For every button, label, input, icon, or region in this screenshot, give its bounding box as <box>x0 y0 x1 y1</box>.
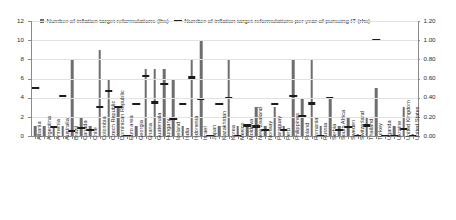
x-axis-category-label: Philippines <box>295 112 301 139</box>
x-axis-category-label: Armenia <box>56 119 62 140</box>
x-axis-category-label: Hungary <box>166 118 172 139</box>
x-axis-category-label: Ghana <box>148 123 154 140</box>
x-axis-category-label: Switzerland <box>360 111 366 140</box>
y-axis-left-tick-label: 0 <box>2 133 24 139</box>
rate-marker <box>133 103 141 105</box>
x-axis-category-label: Chile <box>93 127 99 140</box>
gridline <box>31 40 418 41</box>
x-axis-category-label: Thailand <box>369 118 375 139</box>
rate-marker <box>59 95 67 97</box>
y-axis-right-tick-label: 0.60 <box>424 75 436 81</box>
x-axis-category-label: Paraguay <box>277 116 283 140</box>
rate-marker <box>31 87 39 89</box>
y-axis-right-tick-label: 0.20 <box>424 114 436 120</box>
bar <box>200 40 203 136</box>
rate-marker <box>216 103 224 105</box>
x-axis-category-label: Serbia <box>332 123 338 139</box>
y-axis-right-tick-label: 0.80 <box>424 56 436 62</box>
x-axis-category-label: Russia <box>323 122 329 139</box>
x-axis-category-label: Sweden <box>351 119 357 139</box>
x-axis-category-label: Argentina <box>47 116 53 140</box>
rate-marker <box>96 106 104 108</box>
y-axis-right-tick-label: 1.20 <box>424 18 436 24</box>
y-axis-right-tick-label: 0.00 <box>424 133 436 139</box>
x-axis-category-label: Korea <box>231 125 237 140</box>
x-axis-category-label: Kazakhstan <box>222 110 228 139</box>
x-axis-category-label: Ukraine <box>397 120 403 139</box>
x-axis-category-label: Uganda <box>387 120 393 140</box>
rate-marker <box>289 95 297 97</box>
x-axis-category-label: Romania <box>314 117 320 139</box>
x-axis-category-label: Euro area <box>129 115 135 140</box>
rate-marker <box>142 75 150 77</box>
x-axis-category-label: Iceland <box>176 121 182 139</box>
y-axis-left-tick-label: 8 <box>2 56 24 62</box>
gridline <box>31 21 418 22</box>
x-axis-category-label: Brazil <box>74 126 80 140</box>
y-axis-left-line <box>31 21 32 137</box>
x-axis-category-label: Peru <box>286 128 292 140</box>
x-axis-category-label: Poland <box>305 122 311 139</box>
y-axis-left-tick-label: 4 <box>2 94 24 100</box>
x-axis-category-label: United States <box>415 106 421 140</box>
x-axis-category-label: Albania <box>37 121 43 140</box>
rate-marker <box>105 90 113 92</box>
rate-marker <box>160 83 168 85</box>
rate-marker <box>151 101 159 103</box>
rate-marker <box>308 102 316 104</box>
x-axis-category-label: Moldova <box>249 118 255 139</box>
rate-marker <box>179 103 187 105</box>
chart-container: Number of inflation target reformulation… <box>0 0 456 220</box>
x-axis-category-label: Norway <box>268 121 274 140</box>
y-axis-right-tick-label: 0.40 <box>424 94 436 100</box>
x-axis-category-label: South Africa <box>341 109 347 139</box>
x-axis-category-label: Czech Republic <box>111 100 117 139</box>
x-axis-category-label: New Zealand <box>258 107 264 140</box>
y-axis-left-tick-label: 6 <box>2 75 24 81</box>
x-axis-category-label: Japan <box>212 124 218 139</box>
x-axis-category-label: Israel <box>203 126 209 140</box>
x-axis-category-label: United Kingdom <box>406 100 412 140</box>
x-axis-category-label: Guatemala <box>157 112 163 139</box>
rate-marker <box>271 103 279 105</box>
x-axis-category-label: India <box>185 127 191 139</box>
y-axis-right-tick-label: 1.00 <box>424 37 436 43</box>
x-axis-category-label: Australia <box>65 118 71 140</box>
x-axis-category-label: Indonesia <box>194 115 200 139</box>
x-axis-category-label: Canada <box>83 120 89 140</box>
x-axis-category-label: Mexico <box>240 122 246 140</box>
x-axis-category-label: Colombia <box>102 116 108 140</box>
x-axis-category-label: Turkey <box>378 123 384 140</box>
y-axis-left-tick-label: 12 <box>2 18 24 24</box>
gridline <box>31 79 418 80</box>
y-axis-left-tick-label: 10 <box>2 37 24 43</box>
y-axis-left-tick-label: 2 <box>2 114 24 120</box>
gridline <box>31 59 418 60</box>
x-axis-category-label: Dominican Republic <box>120 90 126 140</box>
gridline <box>31 98 418 99</box>
x-axis-category-label: Georgia <box>139 120 145 140</box>
